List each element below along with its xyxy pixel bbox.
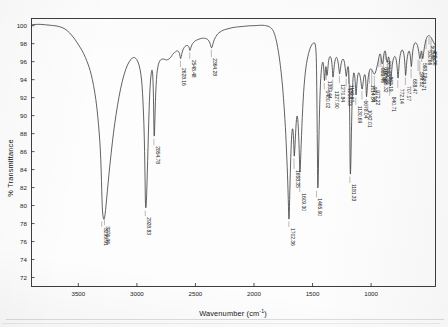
x-tick-label: 2000 (247, 290, 261, 297)
y-tick-label: 84 (20, 166, 27, 173)
x-axis-tick-labels: 350030002500200015001000 (71, 290, 378, 297)
peak-label: 488.36 (432, 50, 438, 65)
plot-frame (32, 19, 436, 287)
peak-label: 1658.35 (295, 170, 301, 188)
x-axis-ticks (78, 283, 371, 287)
y-tick-label: 76 (20, 238, 27, 245)
peak-label: 879.03 (386, 61, 392, 76)
peak-label: 2928.83 (146, 217, 152, 235)
y-tick-label: 72 (20, 274, 27, 281)
x-axis-title: Wavenumber (cm-1) (199, 308, 267, 318)
y-tick-label: 96 (20, 58, 27, 65)
chart-canvas: 7274767880828486889092949698100 35003000… (0, 0, 448, 327)
page-edge-line-secondary (2, 323, 440, 324)
peak-label: 862.19 (388, 77, 394, 92)
peak-label: 1181.33 (351, 184, 357, 202)
x-axis-title-close: ) (264, 309, 267, 318)
x-tick-label: 1000 (364, 290, 378, 297)
spectrum-trace (32, 24, 436, 219)
peak-label: 3276.96 (105, 226, 111, 244)
ftir-spectrum-chart: 7274767880828486889092949698100 35003000… (0, 0, 448, 327)
peak-label: 583.71 (421, 76, 427, 91)
peak-label: 707.17 (406, 86, 412, 101)
peak-label: 2854.78 (155, 146, 161, 164)
peak-label: 972.22 (375, 90, 381, 105)
page-edge-line (6, 319, 444, 320)
peak-leader-lines (102, 37, 431, 227)
y-tick-label: 74 (20, 256, 27, 263)
peak-label: 1702.36 (290, 228, 296, 246)
peak-label: 1609.30 (301, 193, 307, 211)
peak-label: 1130.69 (357, 106, 363, 124)
peak-label: 1327.90 (334, 91, 340, 109)
peak-label: 1270.84 (340, 84, 346, 102)
peak-label: 2548.48 (191, 60, 197, 78)
peak-label: 2628.16 (181, 68, 187, 86)
peak-label: 772.14 (399, 89, 405, 104)
y-axis-title: % Transmittance (6, 139, 15, 196)
peak-label: 1192.87 (349, 85, 355, 103)
peak-label: 658.47 (412, 79, 418, 94)
y-tick-label: 90 (20, 112, 27, 119)
y-tick-label: 92 (20, 94, 27, 101)
x-tick-label: 2500 (189, 290, 203, 297)
y-tick-label: 100 (17, 22, 28, 29)
y-tick-label: 86 (20, 148, 27, 155)
x-tick-label: 1500 (306, 290, 320, 297)
peak-label: 1382.44 (327, 81, 333, 99)
x-tick-label: 3000 (130, 290, 144, 297)
y-tick-label: 94 (20, 76, 27, 83)
y-tick-label: 82 (20, 184, 27, 191)
y-axis-tick-labels: 7274767880828486889092949698100 (17, 22, 28, 281)
peak-label: 2364.28 (212, 58, 218, 76)
x-tick-label: 3500 (71, 290, 85, 297)
peak-label: 840.71 (391, 97, 397, 112)
x-axis-title-base: Wavenumber (cm (199, 309, 259, 318)
spectrum-page: 7274767880828486889092949698100 35003000… (0, 0, 448, 327)
peak-label: 1042.01 (367, 110, 373, 128)
peak-label: 1465.90 (317, 198, 323, 216)
y-tick-label: 80 (20, 202, 27, 209)
y-tick-label: 88 (20, 130, 27, 137)
y-tick-label: 98 (20, 40, 27, 47)
y-tick-label: 78 (20, 220, 27, 227)
